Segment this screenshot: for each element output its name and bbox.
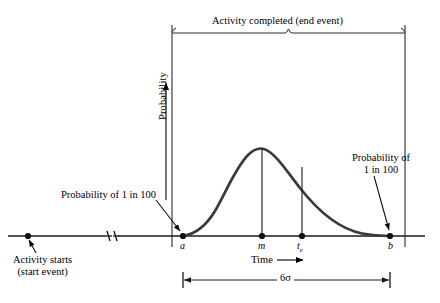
tick-label-a: a xyxy=(180,240,185,252)
y-axis-label: Probability xyxy=(157,72,169,120)
leader-line-left-probability xyxy=(156,200,180,231)
point-a-dot xyxy=(180,233,186,239)
tick-label-te: te xyxy=(297,240,303,254)
tick-label-b: b xyxy=(388,240,393,252)
annotation-right-probability: Probability of 1 in 100 xyxy=(352,152,410,176)
x-axis-label: Time xyxy=(251,254,273,266)
annotation-right-probability-line2: 1 in 100 xyxy=(352,164,410,176)
start-event-dot xyxy=(25,233,31,239)
annotation-start-event-line1: Activity starts xyxy=(13,254,72,266)
point-m-dot xyxy=(259,233,265,239)
top-span-label: Activity completed (end event) xyxy=(212,15,343,27)
top-span-bracket xyxy=(172,25,405,247)
annotation-left-probability: Probability of 1 in 100 xyxy=(61,189,156,201)
six-sigma-span-label: 6σ xyxy=(277,272,294,284)
pert-beta-distribution-figure: Activity completed (end event) Probabili… xyxy=(0,0,440,303)
point-b-dot xyxy=(387,233,393,239)
point-te-dot xyxy=(299,233,305,239)
leader-line-start-event xyxy=(29,240,36,253)
leader-line-right-probability xyxy=(374,176,389,230)
annotation-start-event: Activity starts (start event) xyxy=(13,254,72,278)
annotation-start-event-line2: (start event) xyxy=(13,266,72,278)
axis-break-icon xyxy=(106,231,119,241)
annotation-right-probability-line1: Probability of xyxy=(352,152,410,164)
tick-label-m: m xyxy=(258,240,265,252)
tick-label-te-subscript: e xyxy=(300,246,303,254)
